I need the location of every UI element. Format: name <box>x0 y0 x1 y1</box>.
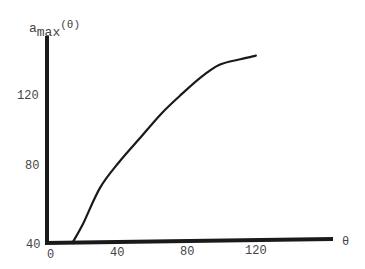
y-axis-label: amax(θ) <box>29 20 80 39</box>
x-axis-label: θ <box>342 236 349 248</box>
x-axis <box>45 239 333 243</box>
x-tick-0: 0 <box>47 249 54 261</box>
y-tick-80: 80 <box>25 160 39 172</box>
y-axis-label-base: a <box>29 21 37 36</box>
x-tick-40: 40 <box>110 247 124 259</box>
y-axis-label-arg: (θ) <box>60 19 80 31</box>
y-axis-label-sub: max <box>37 25 60 40</box>
x-tick-120: 120 <box>245 245 267 257</box>
data-line <box>72 56 256 243</box>
y-tick-120: 120 <box>17 90 39 102</box>
y-tick-40: 40 <box>26 239 40 251</box>
x-tick-80: 80 <box>180 246 194 258</box>
chart-plot-area <box>0 0 365 269</box>
